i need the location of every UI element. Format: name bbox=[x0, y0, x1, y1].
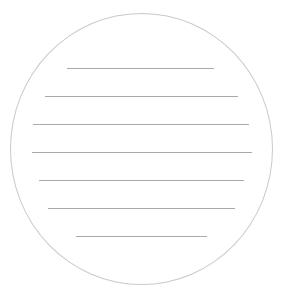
ruled-line bbox=[33, 124, 249, 125]
circle-outline bbox=[10, 13, 273, 285]
ruled-line bbox=[76, 236, 207, 237]
ruled-line bbox=[48, 208, 235, 209]
ruled-line bbox=[67, 68, 214, 69]
ruled-line bbox=[45, 96, 238, 97]
ruled-line bbox=[39, 180, 244, 181]
lined-circle-figure bbox=[0, 0, 286, 297]
ruled-line bbox=[32, 152, 252, 153]
